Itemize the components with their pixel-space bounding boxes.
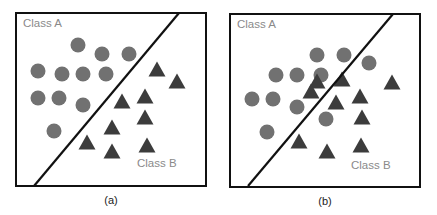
class-a-label: Class A (237, 18, 276, 30)
class-a-point-circle-icon (55, 67, 70, 82)
class-a-point-circle-icon (245, 92, 260, 107)
class-b-label: Class B (137, 157, 177, 169)
class-a-point-circle-icon (122, 47, 137, 62)
class-a-point-circle-icon (99, 67, 114, 82)
class-a-label: Class A (23, 17, 62, 29)
class-a-point-circle-icon (76, 98, 91, 113)
class-a-point-circle-icon (290, 100, 305, 115)
panel-caption: (b) (318, 195, 331, 207)
class-a-point-circle-icon (269, 68, 284, 83)
class-a-point-circle-icon (319, 112, 334, 127)
class-a-point-circle-icon (71, 38, 86, 53)
class-a-point-circle-icon (76, 67, 91, 82)
class-a-point-circle-icon (337, 48, 352, 63)
class-b-label: Class B (351, 159, 391, 171)
class-a-point-circle-icon (31, 91, 46, 106)
class-a-point-circle-icon (52, 91, 67, 106)
class-a-point-circle-icon (31, 64, 46, 79)
panel-b: Class AClass B(b) (230, 14, 420, 207)
class-a-point-circle-icon (310, 48, 325, 63)
class-a-point-circle-icon (260, 125, 275, 140)
class-a-point-circle-icon (47, 124, 62, 139)
panel-a: Class AClass B(a) (16, 13, 206, 206)
class-a-point-circle-icon (362, 56, 377, 71)
panel-caption: (a) (104, 194, 117, 206)
class-a-point-circle-icon (266, 92, 281, 107)
class-a-point-circle-icon (290, 68, 305, 83)
classification-figure: Class AClass B(a) Class AClass B(b) (0, 0, 437, 215)
class-a-point-circle-icon (95, 47, 110, 62)
